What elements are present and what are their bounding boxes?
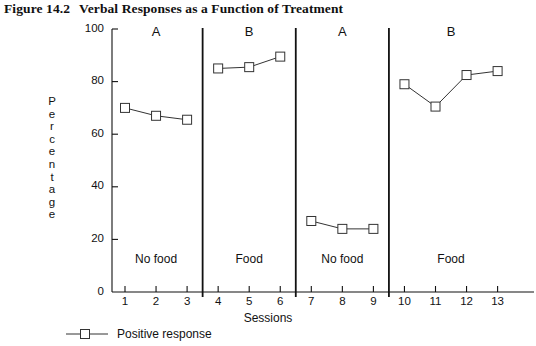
y-axis-title-letter: P (44, 95, 60, 108)
phase-letter-a: A (143, 24, 169, 39)
phase-condition-label: No food (302, 252, 382, 266)
data-point-marker[interactable] (462, 71, 471, 80)
x-tick-label: 1 (112, 295, 138, 307)
data-point-marker[interactable] (307, 216, 316, 225)
y-axis-title-letter: e (44, 108, 60, 121)
x-tick-label: 10 (391, 295, 417, 307)
x-tick-label: 13 (485, 295, 511, 307)
x-tick-label: 12 (454, 295, 480, 307)
x-tick-label: 8 (329, 295, 355, 307)
x-tick-label: 5 (236, 295, 262, 307)
y-axis-title-letter: e (44, 208, 60, 221)
phase-letter-b: B (236, 24, 262, 39)
figure-container: Figure 14.2Verbal Responses as a Functio… (0, 0, 536, 346)
x-tick-label: 2 (143, 295, 169, 307)
y-tick-label: 100 (70, 22, 104, 34)
data-point-marker[interactable] (152, 111, 161, 120)
data-point-marker[interactable] (338, 224, 347, 233)
y-axis-title-letter: t (44, 171, 60, 184)
y-axis-title-letter: e (44, 145, 60, 158)
data-point-marker[interactable] (183, 115, 192, 124)
y-axis-title-letter: c (44, 133, 60, 146)
x-tick-label: 11 (423, 295, 449, 307)
x-tick-label: 4 (205, 295, 231, 307)
y-tick-label: 40 (70, 179, 104, 191)
y-tick-label: 20 (70, 232, 104, 244)
data-point-marker[interactable] (400, 80, 409, 89)
x-tick-label: 3 (174, 295, 200, 307)
data-point-marker[interactable] (493, 67, 502, 76)
phase-condition-label: Food (209, 252, 289, 266)
y-axis-title-letter: a (44, 183, 60, 196)
data-point-marker[interactable] (431, 102, 440, 111)
legend-label-positive-response: Positive response (117, 327, 212, 341)
x-tick-label: 6 (267, 295, 293, 307)
data-point-marker[interactable] (276, 52, 285, 61)
y-axis-title: Percentage (44, 95, 60, 221)
x-tick-label: 7 (298, 295, 324, 307)
data-series-layer (121, 52, 503, 233)
y-axis-title-letter: n (44, 158, 60, 171)
phase-condition-label: No food (116, 252, 196, 266)
data-point-marker[interactable] (369, 224, 378, 233)
x-axis-title: Sessions (236, 311, 300, 325)
x-tick-label: 9 (360, 295, 386, 307)
y-tick-label: 0 (70, 285, 104, 297)
phase-letter-b: B (438, 24, 464, 39)
phase-condition-label: Food (411, 252, 491, 266)
data-point-marker[interactable] (245, 63, 254, 72)
chart-legend: Positive response (66, 327, 212, 341)
y-axis-title-letter: g (44, 196, 60, 209)
phase-letter-a: A (329, 24, 355, 39)
data-point-marker[interactable] (121, 103, 130, 112)
y-axis-title-letter: r (44, 120, 60, 133)
y-tick-label: 80 (70, 74, 104, 86)
data-point-marker[interactable] (214, 64, 223, 73)
legend-marker-icon (66, 327, 108, 341)
y-tick-label: 60 (70, 127, 104, 139)
